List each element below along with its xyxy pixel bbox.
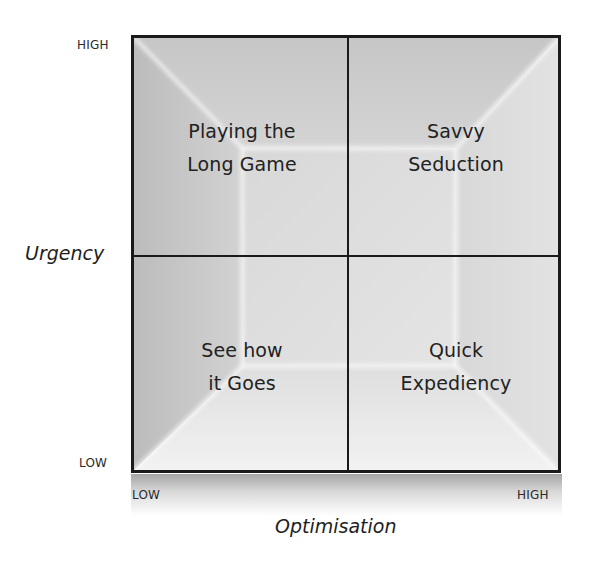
- quadrant-bottom-right-label: Quick Expediency: [356, 334, 556, 400]
- quadrant-top-left-label: Playing the Long Game: [142, 115, 342, 181]
- quadrant-bottom-left-label: See how it Goes: [142, 334, 342, 400]
- y-axis-low-label: LOW: [79, 456, 107, 470]
- horizontal-divider: [134, 255, 558, 257]
- x-axis-low-label: LOW: [132, 488, 160, 502]
- matrix-frame: Playing the Long Game Savvy Seduction Se…: [131, 35, 561, 473]
- x-axis-high-label: HIGH: [517, 488, 549, 502]
- y-axis-title: Urgency: [25, 242, 104, 264]
- quadrant-top-right-label: Savvy Seduction: [356, 115, 556, 181]
- vertical-divider: [347, 38, 349, 470]
- bevel-background: [134, 38, 558, 470]
- quadrant-diagram: HIGH Urgency LOW: [0, 0, 592, 564]
- y-axis-high-label: HIGH: [77, 38, 109, 52]
- bottom-shadow: [131, 474, 562, 516]
- x-axis-title: Optimisation: [275, 515, 396, 537]
